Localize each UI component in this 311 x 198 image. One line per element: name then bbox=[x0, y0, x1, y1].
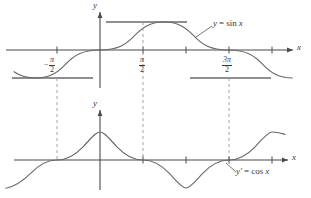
sine-y-axis-label: y bbox=[93, 1, 97, 10]
sine-equation-x: x bbox=[239, 18, 243, 28]
cosine-equation-label: y′= cosx bbox=[236, 167, 269, 176]
sine-panel bbox=[6, 12, 293, 88]
cosine-y-axis-label: y bbox=[93, 99, 97, 108]
sine-equation-operator: = sin bbox=[217, 18, 239, 28]
neg-half-pi-denominator: 2 bbox=[49, 66, 55, 74]
cosine-equation-x: x bbox=[265, 166, 269, 176]
half-pi-numerator: π bbox=[139, 56, 145, 64]
half-pi-denominator: 2 bbox=[139, 66, 145, 74]
half-pi-fraction: π 2 bbox=[139, 56, 145, 75]
three-half-pi-fraction: 3π 2 bbox=[222, 56, 232, 75]
cosine-x-axis-arrow bbox=[282, 158, 288, 163]
sine-label-leader bbox=[196, 26, 212, 37]
sine-tick-label-half-pi: π 2 bbox=[139, 57, 145, 76]
neg-half-pi-fraction: π 2 bbox=[49, 56, 55, 75]
trig-derivative-figure: y x y= sinx − π 2 π 2 3π 2 y x y′= cosx bbox=[0, 0, 311, 198]
sine-tick-label-neg-half-pi: − π 2 bbox=[44, 57, 55, 76]
cosine-y-axis-arrow bbox=[98, 110, 103, 116]
cosine-panel bbox=[6, 110, 288, 190]
sine-tick-label-three-half-pi: 3π 2 bbox=[222, 57, 232, 76]
sine-x-axis-arrow bbox=[287, 48, 293, 53]
three-half-pi-denominator: 2 bbox=[222, 66, 232, 74]
sine-equation-label: y= sinx bbox=[213, 19, 243, 28]
panel-connectors bbox=[57, 22, 229, 160]
three-half-pi-numerator: 3π bbox=[222, 56, 232, 64]
cosine-label-leader bbox=[226, 163, 236, 172]
sine-x-axis-label: x bbox=[297, 43, 301, 52]
sine-y-axis-arrow bbox=[98, 12, 103, 18]
neg-half-pi-numerator: π bbox=[49, 56, 55, 64]
cosine-equation-operator: = cos bbox=[242, 166, 265, 176]
cosine-x-axis-label: x bbox=[292, 153, 296, 162]
